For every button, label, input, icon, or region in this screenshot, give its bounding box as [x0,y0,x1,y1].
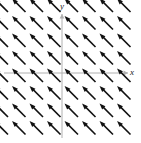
arrow-shaft [0,36,8,47]
field-arrow [65,16,78,29]
field-arrow [117,16,130,29]
field-arrow [12,86,25,99]
field-arrow [30,104,43,117]
field-arrow [82,0,95,12]
field-arrow [0,69,8,82]
field-arrow [30,51,43,64]
arrow-shaft [0,53,8,64]
field-arrow [65,69,78,82]
field-arrow [82,51,95,64]
arrow-shaft [0,18,8,29]
field-arrow [0,104,8,117]
field-arrow [117,69,130,82]
field-arrow [117,121,130,134]
field-arrow [30,16,43,29]
arrow-shaft [0,123,8,134]
field-arrow [0,34,8,47]
field-arrow [0,0,8,12]
field-arrow [12,51,25,64]
field-arrow [12,69,25,82]
y-axis-label: y [60,2,64,11]
field-arrow [117,51,130,64]
field-arrow [47,16,60,29]
field-arrow [82,34,95,47]
field-arrow [100,86,113,99]
field-arrow [65,51,78,64]
field-arrow [117,34,130,47]
field-arrow [30,34,43,47]
field-arrow [30,86,43,99]
field-arrow [100,16,113,29]
field-arrow [117,0,130,12]
field-arrow [47,121,60,134]
field-arrow [65,121,78,134]
field-arrow [100,104,113,117]
field-arrow [0,86,8,99]
field-arrow [47,0,60,12]
field-arrow [100,51,113,64]
field-arrow [82,69,95,82]
field-arrow [12,121,25,134]
x-axis-label: x [130,68,134,77]
field-arrow [30,0,43,12]
field-arrow [47,104,60,117]
field-arrow [0,121,8,134]
field-arrow [0,16,8,29]
field-arrow [47,86,60,99]
field-arrow [82,104,95,117]
field-arrow [47,34,60,47]
field-arrow [47,51,60,64]
field-arrow [0,51,8,64]
field-arrow [12,0,25,12]
vector-field-plot [0,0,141,143]
field-arrow [100,34,113,47]
field-arrow [65,104,78,117]
arrow-shaft [0,88,8,99]
field-arrow [100,121,113,134]
arrow-shaft [0,106,8,117]
y-axis-arrowhead [60,14,65,19]
field-arrow [12,34,25,47]
field-arrow [30,121,43,134]
axes-group [4,14,128,138]
field-arrow [12,104,25,117]
field-arrow [65,86,78,99]
field-arrow [65,0,78,12]
field-arrow [47,69,60,82]
field-arrow [100,0,113,12]
field-arrow [12,16,25,29]
arrow-shaft [0,1,8,12]
field-arrow [65,34,78,47]
field-arrow [82,86,95,99]
vector-field-figure: y x [0,0,141,143]
field-arrow [100,69,113,82]
field-arrow [117,104,130,117]
field-arrow [82,16,95,29]
direction-field-arrows [0,0,130,134]
field-arrow [117,86,130,99]
field-arrow [82,121,95,134]
field-arrow [30,69,43,82]
